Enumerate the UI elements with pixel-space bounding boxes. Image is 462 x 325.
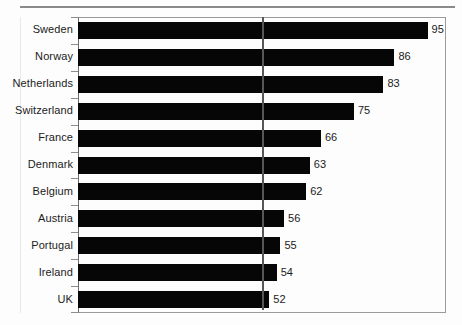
axis-tick [71,178,78,179]
bar [78,183,306,200]
bar [78,210,284,227]
category-label: Norway [0,50,73,62]
value-label: 66 [325,131,337,143]
axis-tick [71,259,78,260]
bar [78,237,280,254]
bar [78,49,394,66]
bar [78,157,310,174]
axis-tick [71,44,78,45]
axis-tick [71,71,78,72]
value-label: 56 [288,212,300,224]
axis-tick [71,232,78,233]
page-top-rule [20,6,455,8]
value-label: 62 [310,185,322,197]
category-label: UK [0,293,73,305]
axis-tick [71,152,78,153]
value-label: 63 [314,158,326,170]
category-label: Austria [0,212,73,224]
bar [78,22,428,39]
bar [78,291,269,308]
category-label: Portugal [0,239,73,251]
axis-tick [71,125,78,126]
category-label: Ireland [0,266,73,278]
axis-tick [71,286,78,287]
category-label: Belgium [0,185,73,197]
value-label: 95 [432,23,444,35]
bar [78,103,354,120]
reference-line-50 [262,17,264,310]
category-label: Denmark [0,158,73,170]
category-label: Netherlands [0,77,73,89]
value-label: 55 [284,239,296,251]
value-label: 52 [273,293,285,305]
category-label: Switzerland [0,104,73,116]
axis-tick [71,98,78,99]
category-label: France [0,131,73,143]
bar-rows-container: Sweden95Norway86Netherlands83Switzerland… [0,17,462,313]
bar [78,130,321,147]
axis-tick [71,205,78,206]
bar [78,76,383,93]
axis-tick [71,312,78,313]
value-label: 86 [398,50,410,62]
value-label: 54 [281,266,293,278]
value-label: 75 [358,104,370,116]
bar [78,264,277,281]
axis-tick [71,17,78,18]
value-label: 83 [387,77,399,89]
category-label: Sweden [0,23,73,35]
chart-page: Sweden95Norway86Netherlands83Switzerland… [0,0,462,325]
